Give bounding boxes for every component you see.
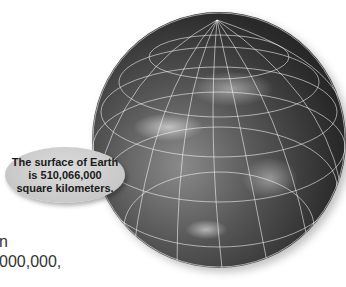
globe	[92, 12, 346, 268]
callout-bubble: The surface of Earth is 510,066,000 squa…	[5, 147, 125, 203]
callout-line-1: The surface of Earth	[12, 156, 118, 169]
callout-line-3: square kilometers.	[12, 182, 118, 195]
graticule-icon	[92, 12, 346, 268]
body-text-line-2: 000,000,	[0, 252, 61, 271]
earth-globe-image	[92, 12, 346, 268]
body-text-line-1: n	[0, 232, 8, 251]
callout-line-2: is 510,066,000	[12, 169, 118, 182]
callout-text: The surface of Earth is 510,066,000 squa…	[12, 156, 118, 195]
